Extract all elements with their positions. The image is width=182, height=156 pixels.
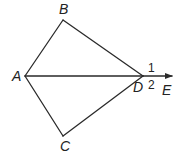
angle-label-1: 1 <box>148 61 155 75</box>
point-label-b: B <box>59 1 68 17</box>
segment-cd <box>63 76 143 136</box>
segment-bd <box>63 20 143 76</box>
geometry-diagram: B A C D E 1 2 <box>0 0 182 156</box>
point-label-c: C <box>60 138 71 154</box>
point-label-d: D <box>133 79 143 95</box>
point-label-e: E <box>162 82 172 98</box>
segment-ab <box>25 20 63 76</box>
point-label-a: A <box>11 68 21 84</box>
segment-ac <box>25 76 63 136</box>
angle-label-2: 2 <box>148 78 155 92</box>
